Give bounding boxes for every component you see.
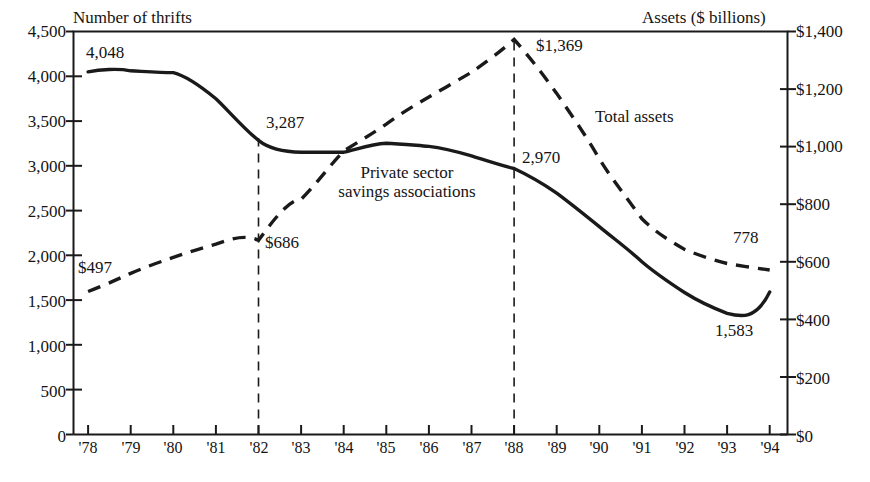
x-tick-83: '83 <box>292 440 311 456</box>
x-tick-87: '87 <box>463 440 482 456</box>
x-tick-94: '94 <box>761 440 780 456</box>
x-tick-90: '90 <box>590 440 609 456</box>
x-axis-tick-labels: '78 '79 '80 '81 '82 '83 '84 '85 '86 '87 … <box>0 440 870 472</box>
annotation-686: $686 <box>265 233 299 252</box>
chart-figure: Number of thrifts Assets ($ billions) 4,… <box>0 0 870 482</box>
series-label-total-assets: Total assets <box>595 107 674 126</box>
x-tick-89: '89 <box>548 440 567 456</box>
x-tick-93: '93 <box>718 440 737 456</box>
x-tick-84: '84 <box>335 440 354 456</box>
x-tick-80: '80 <box>164 440 183 456</box>
x-tick-86: '86 <box>420 440 439 456</box>
annotation-3287: 3,287 <box>266 113 304 132</box>
axis-frame <box>74 32 788 435</box>
series-label-private-sector: Private sector savings associations <box>322 163 492 201</box>
series-label-private-sector-line1: Private sector <box>322 163 492 182</box>
x-axis-ticks <box>88 425 770 435</box>
x-tick-92: '92 <box>676 440 695 456</box>
annotation-778: 778 <box>733 228 759 247</box>
annotation-1369: $1,369 <box>536 36 583 55</box>
annotation-497: $497 <box>78 258 112 277</box>
series-label-private-sector-line2: savings associations <box>322 182 492 201</box>
x-tick-82: '82 <box>250 440 269 456</box>
x-tick-91: '91 <box>633 440 652 456</box>
x-tick-79: '79 <box>122 440 141 456</box>
annotation-4048: 4,048 <box>86 43 124 62</box>
x-tick-88: '88 <box>505 440 524 456</box>
annotation-1583: 1,583 <box>715 321 753 340</box>
x-tick-85: '85 <box>377 440 396 456</box>
x-tick-81: '81 <box>207 440 226 456</box>
x-tick-78: '78 <box>79 440 98 456</box>
annotation-2970: 2,970 <box>522 148 560 167</box>
